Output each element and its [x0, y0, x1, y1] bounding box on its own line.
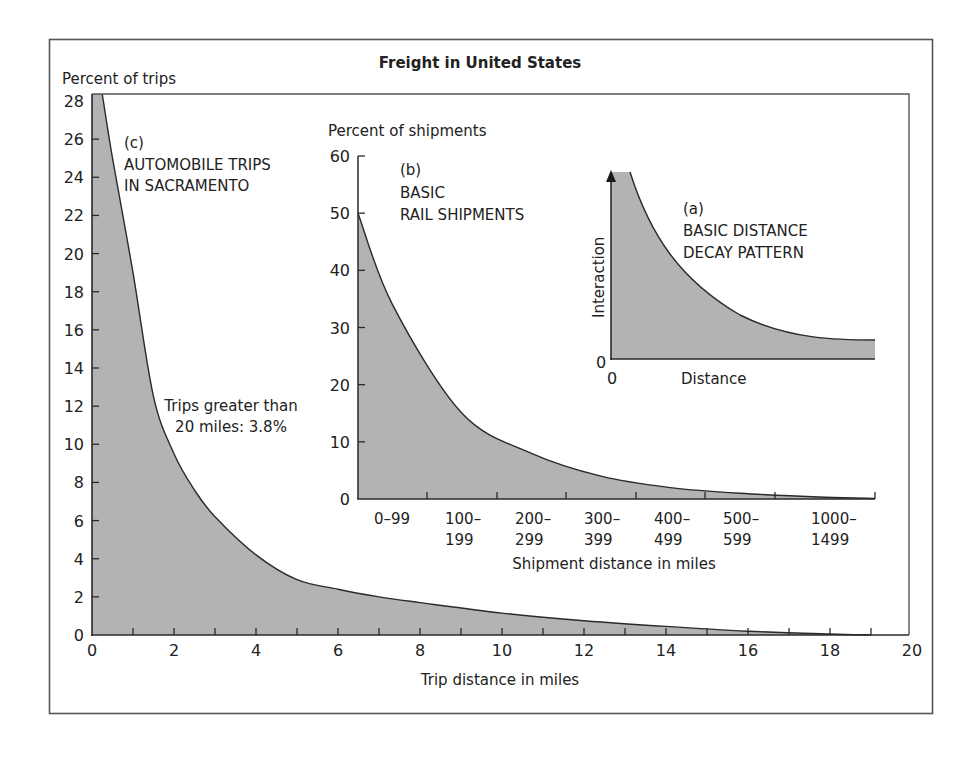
y-tick-label: 24 [64, 168, 84, 187]
category-label: 400– [654, 510, 690, 528]
y-tick-label: 10 [64, 435, 84, 454]
x-tick-label: 10 [492, 641, 512, 660]
y-tick-label: 10 [330, 433, 350, 452]
y-tick-label: 0 [340, 490, 350, 509]
x-tick-label: 4 [251, 641, 261, 660]
category-label: 599 [723, 531, 752, 549]
panel-a-x-origin: 0 [607, 369, 617, 388]
figure: Freight in United States Percent of trip… [0, 0, 971, 759]
category-label: 1499 [811, 531, 849, 549]
y-tick-label: 26 [64, 130, 84, 149]
category-label: 500– [723, 510, 759, 528]
x-tick-label: 16 [738, 641, 758, 660]
y-tick-label: 22 [64, 206, 84, 225]
y-tick-label: 18 [64, 283, 84, 302]
x-tick-label: 18 [820, 641, 840, 660]
category-label: 200– [515, 510, 551, 528]
y-tick-label: 8 [74, 473, 84, 492]
panel-b-label: (b) [400, 161, 421, 179]
y-tick-label: 16 [64, 321, 84, 340]
y-tick-label: 14 [64, 359, 84, 378]
y-tick-label: 20 [64, 245, 84, 264]
panel-a-y-origin: 0 [596, 353, 606, 372]
y-tick-label: 2 [74, 588, 84, 607]
y-tick-label: 12 [64, 397, 84, 416]
panel-c-caption-line-1: AUTOMOBILE TRIPS [124, 156, 271, 174]
x-tick-label: 20 [902, 641, 922, 660]
category-label: 299 [515, 531, 544, 549]
y-tick-label: 30 [330, 319, 350, 338]
y-tick-label: 4 [74, 550, 84, 569]
figure-title: Freight in United States [379, 54, 582, 72]
category-label: 0–99 [374, 510, 410, 528]
panel-c-annotation-line-1: Trips greater than [163, 397, 297, 415]
panel-b-caption-line-2: RAIL SHIPMENTS [400, 206, 524, 224]
panel-c-annotation-line-2: 20 miles: 3.8% [175, 418, 287, 436]
panel-c-automobile-trips: Percent of trips 02468101214161820222426… [62, 70, 922, 689]
category-label: 300– [584, 510, 620, 528]
panel-a-caption-line-2: DECAY PATTERN [683, 244, 804, 262]
panel-a-distance-decay: Interaction 0 0 Distance (a) BASIC DISTA… [590, 170, 875, 388]
x-tick-label: 8 [415, 641, 425, 660]
y-tick-label: 60 [330, 147, 350, 166]
panel-c-area [92, 94, 871, 635]
panel-b-caption-line-1: BASIC [400, 184, 445, 202]
y-tick-label: 50 [330, 204, 350, 223]
category-label: 1000– [811, 510, 857, 528]
category-label: 100– [445, 510, 481, 528]
y-tick-label: 40 [330, 261, 350, 280]
x-tick-label: 0 [87, 641, 97, 660]
y-tick-label: 6 [74, 512, 84, 531]
x-tick-label: 6 [333, 641, 343, 660]
panel-c-ylabel: Percent of trips [62, 70, 176, 88]
panel-c-label: (c) [124, 134, 144, 152]
panel-a-xlabel: Distance [681, 370, 747, 388]
panel-a-area [611, 172, 875, 359]
category-label: 499 [654, 531, 683, 549]
x-tick-label: 2 [169, 641, 179, 660]
category-label: 199 [445, 531, 474, 549]
panel-b-x-ticks: 0–99100–199200–299300–399400–499500–5991… [374, 492, 875, 549]
category-label: 399 [584, 531, 613, 549]
panel-b-ylabel: Percent of shipments [328, 122, 487, 140]
y-tick-label: 0 [74, 626, 84, 645]
y-tick-label: 28 [64, 92, 84, 111]
x-tick-label: 14 [656, 641, 676, 660]
panel-a-label: (a) [683, 200, 704, 218]
panel-c-xlabel: Trip distance in miles [420, 671, 580, 689]
y-tick-label: 20 [330, 376, 350, 395]
panel-a-ylabel: Interaction [590, 237, 608, 318]
x-tick-label: 12 [574, 641, 594, 660]
panel-a-caption-line-1: BASIC DISTANCE [683, 222, 808, 240]
panel-c-caption-line-2: IN SACRAMENTO [124, 177, 249, 195]
panel-b-xlabel: Shipment distance in miles [512, 555, 716, 573]
